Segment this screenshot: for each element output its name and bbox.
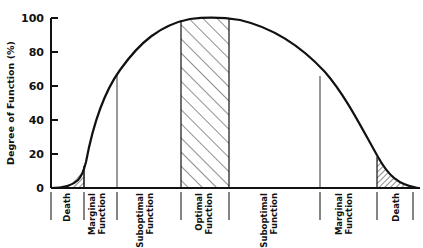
- zone-label-suboptimal-left-2: Function: [145, 193, 155, 234]
- zone-label-optimal-1: Optimal: [194, 193, 204, 231]
- y-axis-label: Degree of Function (%): [5, 41, 16, 165]
- right-death-hatch: [377, 157, 412, 188]
- zone-label-optimal-2: Function: [204, 193, 214, 234]
- function-curve: [51, 18, 418, 188]
- optimal-hatch: [181, 18, 229, 188]
- zone-label-marginal-right-1: Marginal: [334, 193, 344, 235]
- zone-label-suboptimal-left-1: Suboptimal: [135, 193, 145, 248]
- zone-label-suboptimal-right-2: Function: [269, 193, 279, 234]
- y-tick-20: 20: [29, 148, 45, 161]
- y-tick-labels: 100 80 60 40 20 0: [21, 12, 44, 195]
- zone-label-suboptimal-right-1: Suboptimal: [259, 193, 269, 248]
- y-tick-60: 60: [29, 80, 45, 93]
- zone-label-death-right: Death: [391, 193, 401, 222]
- zone-labels: Death Marginal Function Suboptimal Funct…: [62, 193, 401, 248]
- y-tick-40: 40: [29, 114, 45, 127]
- y-tick-80: 80: [29, 46, 45, 59]
- y-tick-100: 100: [21, 12, 44, 25]
- zone-label-marginal-left-2: Function: [97, 193, 107, 234]
- zone-label-death-left: Death: [62, 193, 72, 222]
- y-tick-0: 0: [36, 182, 44, 195]
- zone-label-marginal-left-1: Marginal: [87, 193, 97, 235]
- y-axis: [51, 18, 58, 188]
- tolerance-curve-chart: 100 80 60 40 20 0 Degree of Function (%)…: [0, 0, 423, 248]
- zone-label-marginal-right-2: Function: [344, 193, 354, 234]
